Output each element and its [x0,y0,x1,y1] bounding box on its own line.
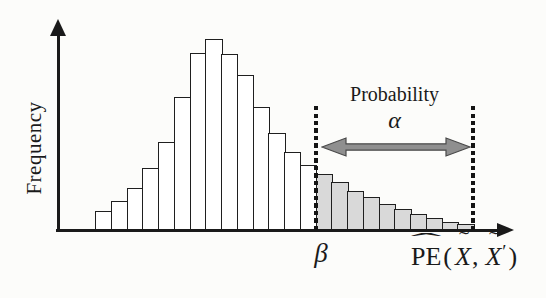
tilde-icon: ˜ [459,229,469,248]
histogram-bar [331,182,348,233]
comma: , [472,242,479,272]
probability-text: Probability [316,84,473,105]
pe-hat: ˆ PE [411,242,441,272]
histogram-bar [268,133,285,233]
x-tilde-first: ˜ X [454,242,472,272]
histogram-bar [253,107,270,233]
histogram-bar [158,142,175,233]
histogram-bar [347,191,364,233]
probability-annotation: Probability α [316,84,473,133]
histogram-bar [190,53,207,233]
histogram-bar [142,168,159,233]
histogram-bar [127,188,144,233]
histogram-bar [316,174,333,233]
x-tilde-second: ˜ X [484,242,502,272]
tilde-icon: ˜ [489,229,499,248]
close-paren: ) [506,242,519,272]
x-axis-label: ˆ PE ( ˜ X , ˜ X ′ ) [411,242,519,272]
prime-symbol: ′ [502,241,506,263]
open-paren: ( [441,242,454,272]
beta-threshold-label: β [301,238,341,269]
histogram-bar [111,201,128,233]
histogram-bar [284,152,301,233]
wide-hat-icon: ˆ [411,231,442,251]
histogram-bar [221,54,238,233]
histogram-bar [174,97,191,233]
histogram-bar [205,39,222,233]
histogram-figure: Frequency Probability α β ˆ PE ( ˜ X , ˜… [0,0,546,298]
alpha-range-arrow-icon [321,137,471,157]
histogram-bar [363,197,380,233]
x-axis-arrowhead-icon [497,223,514,237]
histogram-bar [237,75,254,233]
alpha-symbol: α [316,108,473,133]
